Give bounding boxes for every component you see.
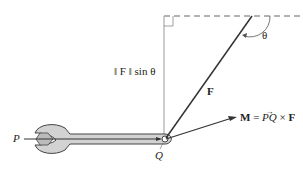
wrench-moment-diagram xyxy=(0,0,303,177)
moment-m: M xyxy=(240,111,250,123)
moment-vector-m xyxy=(166,118,232,139)
point-p-label: P xyxy=(13,133,20,144)
pq-overarrow: → xyxy=(262,108,277,116)
moment-arrowhead xyxy=(228,116,237,121)
moment-pq-vector: → PQ xyxy=(262,112,277,123)
theta-label: θ xyxy=(262,30,267,41)
moment-equation: M = → PQ × F xyxy=(240,112,295,123)
moment-equals: = xyxy=(253,111,259,123)
right-angle-marker xyxy=(164,16,173,26)
force-label: F xyxy=(207,86,214,97)
moment-times: × xyxy=(280,111,286,123)
magnitude-sin-theta-label: ‖ F ‖ sin θ xyxy=(114,66,155,77)
theta-arrowhead xyxy=(242,33,247,38)
moment-f: F xyxy=(289,111,296,123)
point-q-label: Q xyxy=(155,150,163,161)
